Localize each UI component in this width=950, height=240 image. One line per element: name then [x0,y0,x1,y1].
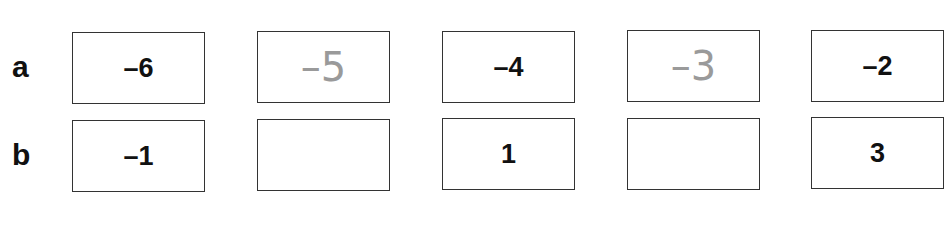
row-label-b: b [12,138,30,172]
row-label-a: a [12,50,29,84]
cell-b3: 1 [442,118,575,190]
cell-a2-filled-answer[interactable]: –5 [257,31,390,103]
cell-b1: –1 [72,120,205,192]
cell-a3: –4 [442,31,575,103]
cell-a4-filled-answer[interactable]: –3 [627,30,760,102]
cell-b4-blank-answer[interactable] [627,118,760,190]
cell-b5: 3 [811,117,944,189]
cell-b2-blank-answer[interactable] [257,119,390,191]
cell-a1: –6 [72,32,205,104]
cell-a5: –2 [811,30,944,102]
